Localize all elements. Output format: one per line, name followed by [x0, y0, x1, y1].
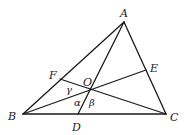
segment-CA — [124, 22, 166, 114]
angle-gamma-label: γ — [66, 84, 72, 95]
label-O: O — [83, 76, 92, 89]
label-E: E — [149, 62, 158, 75]
angle-alpha-label: α — [74, 97, 81, 108]
label-F: F — [48, 69, 57, 82]
label-B: B — [7, 110, 16, 123]
label-C: C — [170, 111, 179, 124]
geometry-diagram: A B C D E F O γ α β — [0, 0, 185, 135]
cevian-AD — [78, 22, 124, 114]
label-D: D — [71, 121, 81, 134]
label-A: A — [119, 7, 128, 20]
angle-beta-label: β — [88, 97, 95, 108]
